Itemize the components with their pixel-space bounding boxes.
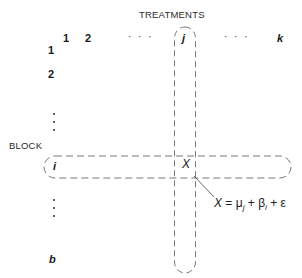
model-formula: X = μj + βi + ε bbox=[214, 196, 286, 212]
formula-lhs: X bbox=[214, 196, 222, 210]
row-ellipsis-upper bbox=[52, 112, 55, 132]
formula-term-beta: β bbox=[258, 196, 265, 210]
row-i-highlight bbox=[44, 156, 291, 178]
formula-equals: = bbox=[225, 196, 232, 210]
column-j-highlight bbox=[175, 27, 196, 273]
row-ellipsis-lower bbox=[52, 198, 55, 218]
leader-line bbox=[194, 176, 214, 197]
column-label-j: j bbox=[182, 32, 185, 44]
row-label-i: i bbox=[53, 160, 56, 172]
column-ellipsis-right: · · · bbox=[224, 31, 250, 42]
formula-plus-2: + bbox=[270, 196, 277, 210]
row-label-1: 1 bbox=[48, 44, 54, 56]
formula-term-epsilon: ε bbox=[281, 196, 286, 210]
row-label-b: b bbox=[49, 253, 56, 265]
treatments-heading: TREATMENTS bbox=[139, 9, 205, 20]
row-label-2: 2 bbox=[48, 68, 54, 80]
column-label-k: k bbox=[277, 32, 283, 44]
column-ellipsis-left: · · · bbox=[128, 31, 154, 42]
formula-term-mu: μ bbox=[236, 196, 243, 210]
block-heading: BLOCK bbox=[9, 140, 42, 151]
cell-observation-x: X bbox=[182, 157, 190, 171]
formula-plus-1: + bbox=[248, 196, 255, 210]
formula-sub-i: i bbox=[265, 203, 267, 212]
column-label-2: 2 bbox=[85, 32, 91, 44]
formula-sub-j: j bbox=[243, 203, 245, 212]
column-label-1: 1 bbox=[63, 32, 69, 44]
